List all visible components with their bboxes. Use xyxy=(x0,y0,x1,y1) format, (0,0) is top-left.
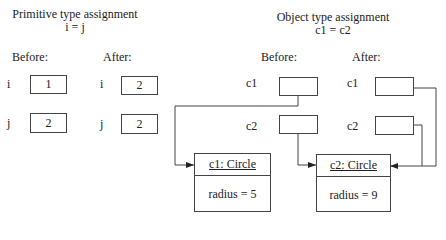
reference-box-c1-after xyxy=(375,77,414,96)
var-label-c2-before: c2 xyxy=(246,120,257,133)
primitive-before-label: Before: xyxy=(12,51,48,64)
value-box-i-after: 2 xyxy=(121,76,158,95)
reference-box-c1-before xyxy=(279,77,318,96)
object-c1-circle: c1: Circle radius = 5 xyxy=(194,153,271,212)
reference-box-c2-before xyxy=(279,115,318,134)
var-label-j-after: j xyxy=(100,118,103,131)
var-label-i-after: i xyxy=(100,78,103,91)
object-c1-name: c1: Circle xyxy=(209,157,256,172)
var-label-c1-after: c1 xyxy=(347,77,358,90)
object-before-label: Before: xyxy=(261,51,297,64)
object-c1-field: radius = 5 xyxy=(195,176,270,212)
value-box-j-before: 2 xyxy=(30,113,67,133)
primitive-expression: i = j xyxy=(0,21,150,34)
primitive-after-label: After: xyxy=(103,51,132,64)
object-c2-circle: c2: Circle radius = 9 xyxy=(316,154,391,212)
object-after-label: After: xyxy=(352,51,381,64)
object-c2-name: c2: Circle xyxy=(330,158,377,173)
var-label-c2-after: c2 xyxy=(347,120,358,133)
object-expression: c1 = c2 xyxy=(258,24,408,37)
var-label-j-before: j xyxy=(7,117,10,130)
var-label-i-before: i xyxy=(7,78,10,91)
value-box-j-after: 2 xyxy=(121,114,158,134)
var-label-c1-before: c1 xyxy=(246,77,257,90)
object-c2-field: radius = 9 xyxy=(317,177,390,213)
value-box-i-before: 1 xyxy=(30,75,67,94)
reference-box-c2-after xyxy=(375,116,414,135)
